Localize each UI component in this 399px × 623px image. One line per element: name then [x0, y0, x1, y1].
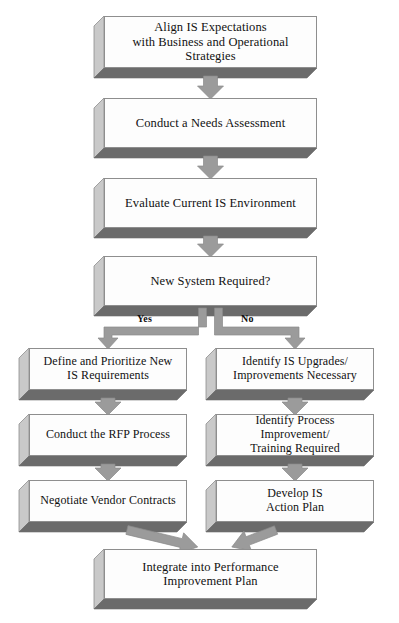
flow-node-training[interactable]: Identify Process Improvement/ Training R… — [216, 414, 374, 456]
arrow-define-to-rfp — [95, 398, 121, 415]
branch-label-yes: Yes — [137, 313, 152, 324]
flow-node-decision[interactable]: New System Required? — [104, 256, 317, 306]
flow-node-evaluate[interactable]: Evaluate Current IS Environment — [104, 178, 317, 228]
node-label-negotiate: Negotiate Vendor Contracts — [29, 480, 187, 522]
branch-label-no: No — [241, 313, 254, 324]
flowchart-graphics-layer — [0, 0, 399, 623]
node-side-panel — [94, 16, 104, 78]
node-label-evaluate: Evaluate Current IS Environment — [104, 178, 317, 228]
node-side-panel — [94, 98, 104, 158]
node-label-integrate: Integrate into Performance Improvement P… — [104, 549, 317, 599]
node-side-panel — [94, 178, 104, 238]
node-label-decision: New System Required? — [104, 256, 317, 306]
node-label-needs: Conduct a Needs Assessment — [104, 98, 317, 148]
arrow-needs-to-evaluate — [198, 156, 224, 179]
arrow-evaluate-to-decision — [198, 236, 224, 257]
flow-node-negotiate[interactable]: Negotiate Vendor Contracts — [29, 480, 187, 522]
flow-node-actionplan[interactable]: Develop IS Action Plan — [216, 480, 374, 522]
node-label-upstrategy: Identify IS Upgrades/ Improvements Neces… — [216, 348, 374, 390]
node-shadow-slab — [19, 522, 187, 532]
node-label-define: Define and Prioritize New IS Requirement… — [29, 348, 187, 390]
node-label-rfp: Conduct the RFP Process — [29, 414, 187, 456]
node-side-panel — [94, 256, 104, 316]
node-shadow-slab — [94, 599, 317, 609]
node-label-actionplan: Develop IS Action Plan — [216, 480, 374, 522]
node-label-training: Identify Process Improvement/ Training R… — [216, 414, 374, 456]
flow-node-rfp[interactable]: Conduct the RFP Process — [29, 414, 187, 456]
node-shadow-slab — [206, 522, 374, 532]
flow-node-integrate[interactable]: Integrate into Performance Improvement P… — [104, 549, 317, 599]
arrow-training-to-actionplan — [282, 464, 308, 481]
flow-node-define[interactable]: Define and Prioritize New IS Requirement… — [29, 348, 187, 390]
arrow-rfp-to-negotiate — [95, 464, 121, 481]
arrow-align-to-needs — [198, 76, 224, 99]
node-label-align: Align IS Expectations with Business and … — [104, 16, 317, 68]
node-side-panel — [94, 549, 104, 609]
flow-node-upstrategy[interactable]: Identify IS Upgrades/ Improvements Neces… — [216, 348, 374, 390]
flowchart-canvas: Align IS Expectations with Business and … — [0, 0, 399, 623]
flow-node-needs[interactable]: Conduct a Needs Assessment — [104, 98, 317, 148]
flow-node-align[interactable]: Align IS Expectations with Business and … — [104, 16, 317, 68]
